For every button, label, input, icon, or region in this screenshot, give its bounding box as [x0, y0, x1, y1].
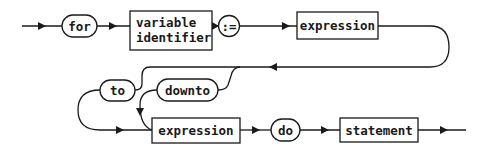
svg-text:to: to	[110, 83, 125, 98]
arrow-icon	[109, 22, 117, 30]
terminal-downto: downto	[157, 79, 218, 101]
arrow-icon	[440, 126, 448, 134]
branch-downto-line	[218, 67, 240, 90]
arrow-icon	[269, 63, 277, 71]
nonterminal-statement: statement	[340, 118, 418, 142]
nonterminal-expression-final: expression	[152, 118, 240, 143]
terminal-to: to	[100, 80, 135, 101]
terminal-do: do	[271, 119, 300, 141]
svg-text:do: do	[278, 123, 293, 138]
arrow-icon	[38, 22, 46, 30]
svg-text:downto: downto	[165, 83, 210, 98]
svg-text:statement: statement	[345, 123, 413, 138]
svg-text:expression: expression	[300, 18, 375, 33]
arrow-icon	[116, 126, 124, 134]
nonterminal-expression-initial: expression	[297, 12, 378, 39]
terminal-for: for	[62, 15, 97, 37]
svg-text:identifier: identifier	[136, 30, 212, 45]
terminal-assign: :=	[219, 16, 240, 37]
svg-text:variable: variable	[136, 15, 197, 30]
arrow-icon	[136, 108, 144, 116]
arrow-icon	[252, 126, 260, 134]
nonterminal-variable-identifier: variable identifier	[130, 11, 212, 50]
arrow-icon	[282, 22, 290, 30]
svg-text:for: for	[68, 19, 91, 34]
arrow-icon	[321, 126, 329, 134]
svg-text::=: :=	[221, 19, 236, 34]
svg-text:expression: expression	[158, 123, 233, 138]
for-statement-syntax-diagram: for variable identifier := expression to…	[0, 0, 483, 150]
